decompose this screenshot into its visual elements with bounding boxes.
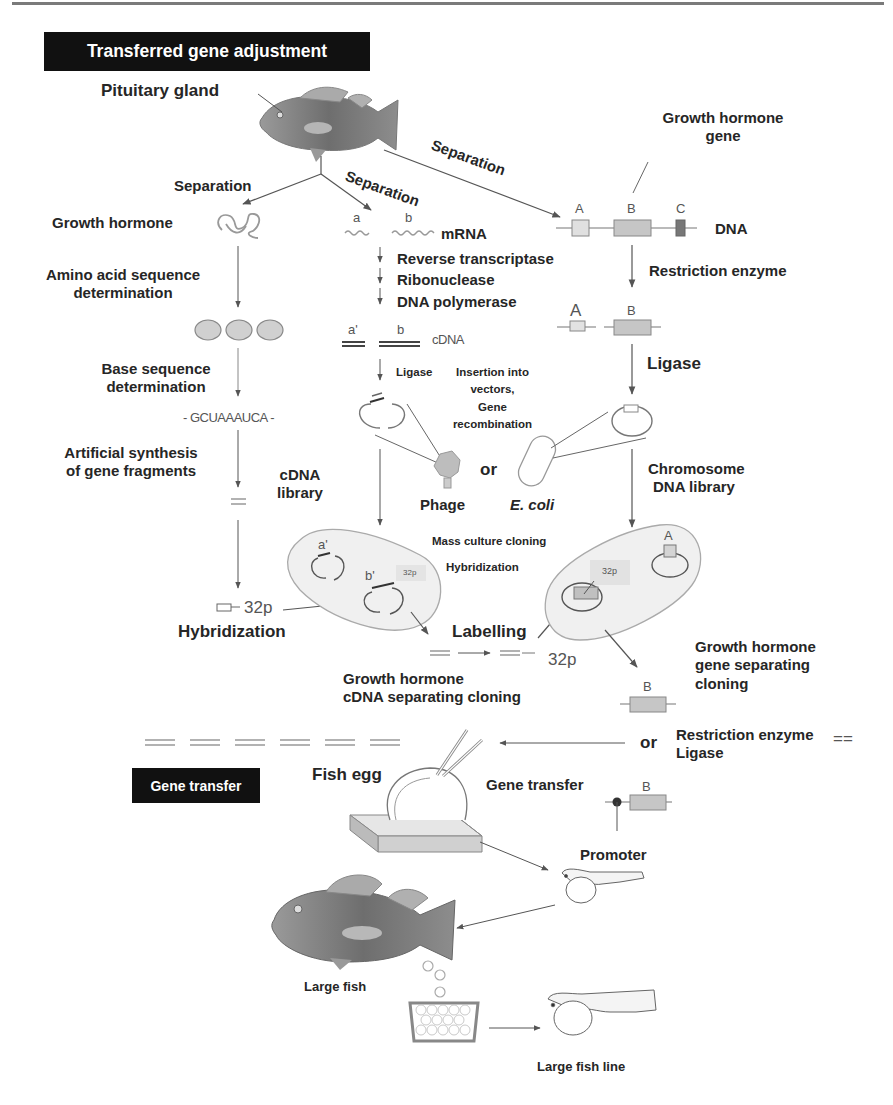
label-dna: DNA <box>715 220 748 238</box>
label-promoter: Promoter <box>580 846 647 864</box>
label-large-fish-line: Large fish line <box>537 1059 625 1075</box>
label-artificial-synthesis: Artificial synthesis of gene fragments <box>46 444 216 481</box>
label-growth-hormone-gene: Growth hormone gene <box>643 109 803 146</box>
label-amino-acid-determination: Amino acid sequence determination <box>28 266 218 303</box>
label-mass-culture-cloning: Mass culture cloning <box>432 534 546 548</box>
phage-icon <box>434 451 460 488</box>
label-line: Amino acid sequence <box>28 266 218 284</box>
label-restriction-enzyme: Restriction enzyme <box>649 262 787 280</box>
label-cdna-a-prime: a' <box>348 322 358 338</box>
label-or-bottom: or <box>640 733 657 754</box>
label-line: cloning <box>695 675 816 693</box>
larva-icon <box>548 990 656 1035</box>
label-chrom-a: A <box>664 528 673 544</box>
label-32p-colony-left: 32p <box>403 568 416 578</box>
label-lib-a-prime: a' <box>318 537 328 553</box>
large-fish-icon <box>272 875 455 970</box>
label-cdna: cDNA <box>432 332 464 348</box>
label-line: gene <box>643 127 803 145</box>
label-hybridization-left: Hybridization <box>178 622 286 643</box>
label-line: Restriction enzyme <box>676 726 814 744</box>
diagram-graphics <box>0 0 893 1105</box>
label-line: library <box>270 484 330 502</box>
label-insertion-vectors: Insertion into vectors, Gene recombinati… <box>440 364 545 433</box>
label-line: of gene fragments <box>46 462 216 480</box>
label-separation-left: Separation <box>174 177 252 195</box>
label-separated-b: B <box>643 679 652 695</box>
label-line: recombination <box>440 416 545 433</box>
ecoli-icon <box>514 432 560 490</box>
fish-adult-icon <box>260 87 398 162</box>
label-dna-polymerase: DNA polymerase <box>397 293 517 311</box>
amino-acid-beads-icon <box>195 320 283 340</box>
label-growth-hormone: Growth hormone <box>52 214 173 232</box>
label-large-fish: Large fish <box>304 979 366 995</box>
label-gene-transfer-step: Gene transfer <box>486 776 584 794</box>
label-chromosome-dna-library: Chromosome DNA library <box>648 460 745 497</box>
label-line: Base sequence <box>86 360 226 378</box>
label-line: vectors, <box>440 381 545 398</box>
label-mrna-b: b <box>405 210 412 226</box>
label-line: Growth hormone <box>343 670 521 688</box>
label-gene-c: C <box>676 201 685 217</box>
label-base-sequence-determination: Base sequence determination <box>86 360 226 397</box>
label-cdna-b: b <box>397 322 404 338</box>
egg-dish-icon <box>410 1003 478 1041</box>
microinjection-egg-icon <box>350 730 482 852</box>
label-line: determination <box>86 378 226 396</box>
label-32p-labelling: 32p <box>548 650 576 671</box>
label-fish-egg: Fish egg <box>312 765 382 786</box>
plasmid-icon <box>360 393 405 428</box>
label-line: cDNA separating cloning <box>343 688 521 706</box>
label-ribonuclease: Ribonuclease <box>397 271 495 289</box>
label-line: determination <box>28 284 218 302</box>
label-line: Chromosome <box>648 460 745 478</box>
label-cut-a: A <box>570 301 581 322</box>
label-line: Growth hormone <box>695 638 816 656</box>
label-pituitary-gland: Pituitary gland <box>101 81 219 102</box>
label-or-vectors: or <box>480 460 497 481</box>
label-line: gene separating <box>695 656 816 674</box>
bacterial-colony-icon <box>545 525 700 640</box>
label-reverse-transcriptase: Reverse transcriptase <box>397 250 554 268</box>
label-gene-b: B <box>627 201 636 217</box>
larva-icon <box>562 869 644 903</box>
label-mrna-a: a <box>353 210 360 226</box>
label-gh-cdna-separating-cloning: Growth hormone cDNA separating cloning <box>343 670 521 707</box>
label-restriction-enzyme-ligase: Restriction enzyme Ligase <box>676 726 814 763</box>
label-gene-a: A <box>575 201 584 217</box>
base-sequence-text: - GCUAAAUCA - <box>183 410 274 426</box>
label-phage: Phage <box>420 496 465 514</box>
label-cdna-library: cDNA library <box>270 466 330 503</box>
label-line: Gene <box>440 399 545 416</box>
label-line: Artificial synthesis <box>46 444 216 462</box>
label-gh-gene-separating-cloning: Growth hormone gene separating cloning <box>695 638 816 693</box>
label-mrna: mRNA <box>441 225 487 243</box>
label-cut-b: B <box>627 303 636 319</box>
label-lib-b-prime: b' <box>365 568 375 584</box>
label-line: Ligase <box>676 744 814 762</box>
label-promoter-b: B <box>642 779 651 795</box>
protein-coil-icon <box>218 214 259 238</box>
label-ecoli: E. coli <box>510 496 554 514</box>
label-line: DNA library <box>648 478 745 496</box>
label-32p-probe: 32p <box>244 598 272 619</box>
label-hybridization-mid: Hybridization <box>446 560 519 574</box>
label-line: Insertion into <box>440 364 545 381</box>
label-ligase-small: Ligase <box>396 365 432 379</box>
label-line: Growth hormone <box>643 109 803 127</box>
gene-copies <box>145 740 400 745</box>
label-ligase-big: Ligase <box>647 354 701 375</box>
label-line: cDNA <box>270 466 330 484</box>
label-32p-colony-right: 32p <box>602 566 617 577</box>
label-double-line: == <box>833 729 853 750</box>
label-labelling: Labelling <box>452 622 527 643</box>
